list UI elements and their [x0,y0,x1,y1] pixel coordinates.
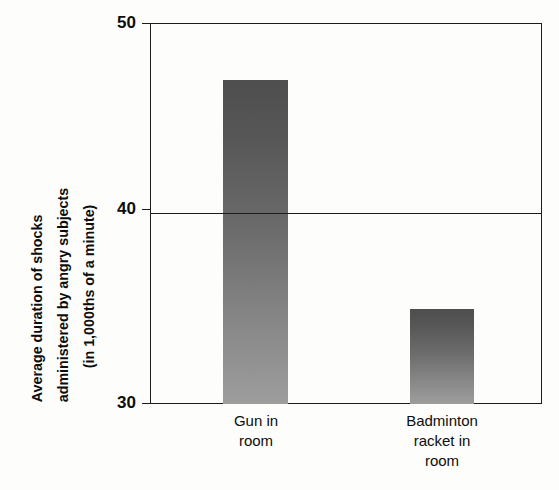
bar-gun-in-room [223,80,288,404]
y-axis-title: Average duration of shocks administered … [26,16,104,408]
x-axis-label-badminton-racket-in-room: Badminton racket in room [372,411,512,470]
y-axis-title-line-1: Average duration of shocks [30,214,44,402]
bar-chart-figure: Average duration of shocks administered … [0,0,559,490]
y-tick-label-50: 50 [96,14,136,31]
x-axis-label-gun-in-room: Gun in room [186,411,326,451]
plot-area-frame [150,23,542,404]
x-axis-label-gun-line-1: Gun in [186,411,326,431]
x-axis-label-badminton-line-1: Badminton [372,411,512,431]
y-tick-mark-50 [142,23,150,24]
y-tick-mark-40 [142,209,150,210]
y-tick-label-40: 40 [96,200,136,217]
gridline-value-40 [150,213,542,214]
x-axis-label-badminton-line-3: room [372,451,512,471]
y-tick-mark-30 [142,403,150,404]
y-tick-label-30: 30 [96,394,136,411]
y-axis-title-line-3: (in 1,000ths of a minute) [82,204,96,368]
x-axis-label-gun-line-2: room [186,431,326,451]
x-axis-label-badminton-line-2: racket in [372,431,512,451]
y-axis-title-line-2: administered by angry subjects [56,187,70,402]
bar-badminton-racket-in-room [410,309,474,404]
